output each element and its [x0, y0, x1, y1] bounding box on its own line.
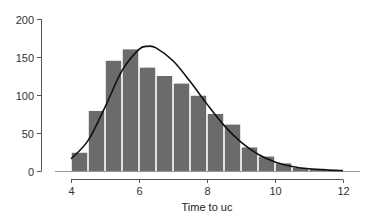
histogram-chart: 050100150200 4681012 Time to uc	[0, 0, 376, 219]
x-tick-label: 10	[269, 185, 281, 197]
y-axis: 050100150200	[16, 14, 42, 178]
histogram-bar	[242, 147, 257, 171]
histogram-bar	[123, 49, 138, 171]
y-tick-label: 50	[22, 128, 34, 140]
histogram-bars	[72, 49, 342, 171]
x-tick-label: 8	[204, 185, 210, 197]
histogram-bar	[157, 76, 172, 171]
x-axis-title: Time to uc	[182, 201, 233, 213]
histogram-bar	[140, 68, 155, 171]
y-tick-label: 150	[16, 52, 34, 64]
histogram-bar	[191, 96, 206, 171]
y-tick-label: 0	[28, 166, 34, 178]
histogram-bar	[89, 111, 104, 171]
y-tick-label: 100	[16, 90, 34, 102]
x-tick-label: 6	[136, 185, 142, 197]
y-tick-label: 200	[16, 14, 34, 26]
x-tick-label: 4	[68, 185, 74, 197]
histogram-bar	[225, 125, 240, 171]
histogram-bar	[174, 84, 189, 171]
x-tick-label: 12	[337, 185, 349, 197]
x-axis: 4681012	[68, 180, 349, 198]
